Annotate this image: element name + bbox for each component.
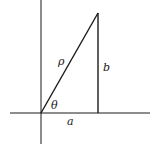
label-a: a	[67, 116, 74, 127]
label-rho: ρ	[58, 56, 64, 67]
polar-triangle-diagram: ρ b θ a	[0, 0, 157, 152]
label-b: b	[103, 62, 110, 73]
hypotenuse-rho	[41, 13, 98, 113]
diagram-lines	[0, 0, 157, 152]
label-theta: θ	[51, 100, 58, 111]
